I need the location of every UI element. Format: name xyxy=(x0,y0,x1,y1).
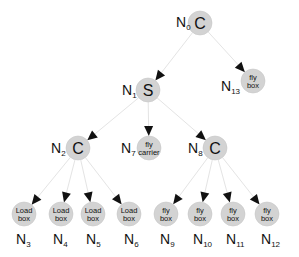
node-n1: S xyxy=(136,78,160,102)
node-label-n12: N12 xyxy=(261,231,281,249)
node-n7: flycarrier xyxy=(137,136,161,160)
edge-N0-N1 xyxy=(160,32,192,74)
node-text-line2: box xyxy=(87,214,99,223)
edge-N2-N4 xyxy=(66,160,75,195)
node-text-line2: box xyxy=(123,214,135,223)
node-label-n6: N6 xyxy=(124,231,139,249)
edges-layer xyxy=(37,32,255,199)
node-symbol: C xyxy=(209,140,221,157)
node-label-n5: N5 xyxy=(86,231,101,249)
edge-N1-N8 xyxy=(157,98,200,135)
node-label-n4: N4 xyxy=(53,231,68,249)
node-label-n1: N1 xyxy=(122,82,137,100)
arrowhead-icon xyxy=(84,192,93,203)
node-label-n9: N9 xyxy=(160,231,175,249)
arrowhead-icon xyxy=(173,194,183,205)
edge-N1-N2 xyxy=(93,98,138,136)
arrowhead-icon xyxy=(32,194,42,205)
node-n4: Loadbox xyxy=(49,202,73,226)
node-n8: C xyxy=(203,136,227,160)
node-label-n3: N3 xyxy=(16,231,31,249)
node-label-n0: N0 xyxy=(176,14,191,32)
node-text-line2: carrier xyxy=(138,148,160,157)
node-symbol: C xyxy=(194,15,206,32)
node-n0: C xyxy=(188,11,212,35)
edge-N2-N6 xyxy=(85,157,116,198)
node-n11: flybox xyxy=(221,202,245,226)
node-label-n7: N7 xyxy=(121,140,136,158)
node-text-line2: box xyxy=(55,214,67,223)
arrowhead-icon xyxy=(223,192,232,203)
node-label-n10: N10 xyxy=(193,231,213,249)
edge-N2-N3 xyxy=(37,157,71,198)
node-text-line2: box xyxy=(160,214,172,223)
node-symbol: C xyxy=(72,140,84,157)
tree-diagram: CSflyboxCflycarrierCLoadboxLoadboxLoadbo… xyxy=(0,0,299,257)
edge-N8-N9 xyxy=(178,158,208,198)
arrowhead-icon xyxy=(250,194,260,205)
nodes-layer: CSflyboxCflycarrierCLoadboxLoadboxLoadbo… xyxy=(12,11,279,226)
node-n9: flybox xyxy=(154,202,178,226)
node-label-n13: N13 xyxy=(221,78,241,96)
node-n12: flybox xyxy=(255,202,279,226)
edge-N2-N5 xyxy=(81,160,89,195)
node-n6: Loadbox xyxy=(117,202,141,226)
node-text-line2: box xyxy=(261,214,273,223)
arrowhead-icon xyxy=(144,126,153,136)
arrowhead-icon xyxy=(62,192,71,203)
edge-N0-N13 xyxy=(208,32,239,66)
node-symbol: S xyxy=(143,82,154,99)
arrowhead-icon xyxy=(200,192,209,203)
node-text-line2: box xyxy=(247,81,259,90)
node-label-n2: N2 xyxy=(51,140,66,158)
node-n13: flybox xyxy=(241,69,265,93)
node-text-line2: box xyxy=(194,214,206,223)
node-text-line2: box xyxy=(227,214,239,223)
arrowhead-icon xyxy=(87,130,98,140)
arrowhead-icon xyxy=(195,130,206,140)
node-n2: C xyxy=(66,136,90,160)
node-label-n11: N11 xyxy=(226,231,245,249)
edge-N8-N11 xyxy=(218,160,228,195)
edge-N8-N10 xyxy=(204,160,212,195)
node-text-line2: box xyxy=(18,214,30,223)
node-n10: flybox xyxy=(188,202,212,226)
arrowhead-icon xyxy=(155,70,165,81)
node-n5: Loadbox xyxy=(81,202,105,226)
arrowhead-icon xyxy=(112,194,122,205)
node-n3: Loadbox xyxy=(12,202,36,226)
node-label-n8: N8 xyxy=(188,140,203,158)
